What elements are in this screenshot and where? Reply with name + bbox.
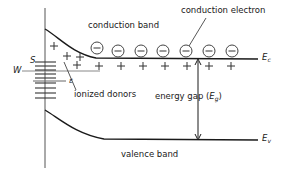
valence-band-label: valence band — [121, 150, 178, 159]
ionized-donor — [73, 61, 81, 69]
conduction-electron — [91, 42, 103, 54]
energy-gap-label: energy gap (Eg) — [155, 92, 222, 101]
ionized-donor — [161, 62, 169, 70]
ionized-donor — [117, 62, 125, 70]
valence-band-edge-label: Ev — [262, 134, 271, 143]
energy-band-diagram-figure: conduction band conduction electron ioni… — [0, 0, 292, 175]
conduction-electron — [226, 45, 238, 57]
conduction-band-edge — [45, 29, 258, 59]
binding-energy-label: ε — [69, 77, 73, 85]
ec-subscript: c — [267, 56, 270, 63]
conduction-electron — [203, 45, 215, 57]
ionized-donor — [63, 52, 71, 60]
fermi-level-label: W — [13, 66, 21, 75]
conduction-electron — [157, 45, 169, 57]
conduction-electron — [180, 45, 192, 57]
ionized-donor-group — [73, 61, 235, 70]
conduction-electron — [135, 45, 147, 57]
energy-gap-subscript: g — [215, 95, 219, 102]
ionized-donor — [95, 62, 103, 70]
donor-level-label: S — [30, 56, 35, 65]
valence-band-edge — [45, 110, 258, 140]
ionized-donor — [205, 62, 213, 70]
conduction-electron — [112, 45, 124, 57]
energy-gap-close: ) — [219, 91, 222, 101]
conduction-electron-group — [91, 42, 238, 57]
ionized-donor — [50, 42, 58, 50]
ionized-donors-label: ionized donors — [74, 90, 136, 99]
ev-subscript: v — [267, 137, 271, 144]
energy-gap-symbol: E — [209, 91, 214, 101]
ionized-donor — [227, 62, 235, 70]
ionized-donor — [183, 62, 191, 70]
conduction-band-label: conduction band — [88, 21, 159, 30]
ionized-donor — [139, 62, 147, 70]
conduction-band-edge-label: Ec — [262, 53, 271, 62]
conduction-electron-label: conduction electron — [181, 6, 265, 15]
conduction-electron-leader — [189, 18, 206, 46]
energy-gap-text: energy gap ( — [155, 91, 209, 101]
